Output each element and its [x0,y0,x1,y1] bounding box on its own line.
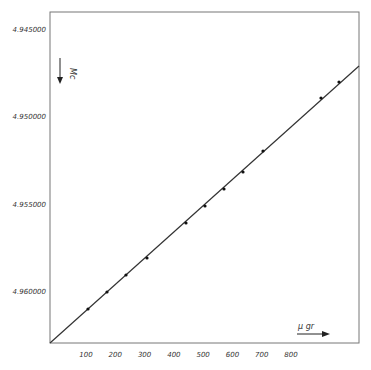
y-unit-label: Mc [68,68,77,80]
y-tick-labels: 4.9450004.9500004.9550004.960000 [13,26,47,297]
y-tick-label: 4.945000 [13,26,47,34]
data-point [105,290,108,293]
x-tick-label: 100 [79,351,93,359]
data-point [222,187,225,190]
data-point [145,256,148,259]
x-tick-label: 200 [109,351,123,359]
chart: 4.9450004.9500004.9550004.960000 1002003… [0,0,371,370]
y-tick-label: 4.960000 [13,288,47,296]
x-direction-arrow-icon [297,331,330,337]
x-tick-label: 300 [138,351,152,359]
data-point [337,80,340,83]
x-unit-label: µ gr [297,322,315,331]
x-tick-label: 500 [196,351,210,359]
x-tick-label: 800 [284,351,298,359]
plot-frame [50,12,359,343]
x-tick-label: 400 [167,351,181,359]
y-tick-label: 4.955000 [13,201,47,209]
data-point [184,221,187,224]
data-point [261,149,264,152]
x-tick-label: 600 [226,351,240,359]
y-direction-arrow-icon [57,58,63,84]
data-point [86,307,89,310]
x-tick-labels: 100200300400500600700800 [79,351,298,359]
y-tick-label: 4.950000 [13,113,47,121]
data-point [124,273,127,276]
data-point [241,170,244,173]
data-point [203,204,206,207]
data-point [319,96,322,99]
x-tick-label: 700 [255,351,269,359]
